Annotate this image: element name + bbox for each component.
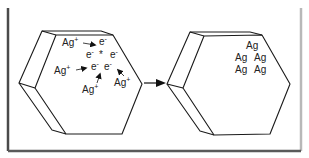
silver-atom-label-5: Ag — [254, 64, 266, 75]
silver-atom-label-2: Ag — [235, 52, 247, 63]
latent-image-site-star: * — [99, 49, 103, 60]
silver-atom-label-4: Ag — [235, 64, 247, 75]
silver-atom-label-3: Ag — [254, 52, 266, 63]
reaction-arrow-icon — [144, 79, 166, 87]
right-hexagonal-crystal — [167, 32, 290, 135]
diagram-canvas: Ag+ e- e- * e- Ag+ e- e- Ag+ Ag+ Ag Ag A… — [0, 0, 309, 158]
silver-atom-label-1: Ag — [246, 40, 258, 51]
